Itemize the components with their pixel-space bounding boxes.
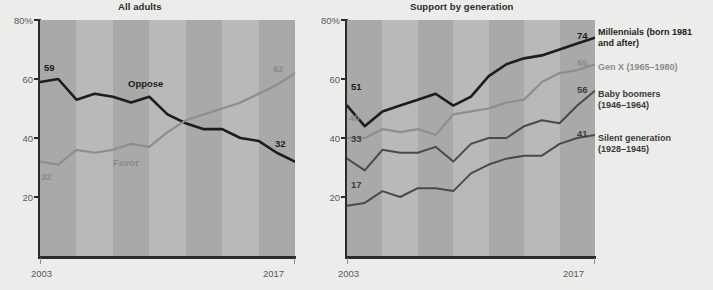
label-boomers-start: 33 <box>351 134 362 144</box>
legend-item-silent-generation: Silent generation (1928–1945) <box>598 133 671 155</box>
plot-area-support-by-generation <box>347 20 595 256</box>
series-label-oppose: Oppose <box>128 79 163 89</box>
panel-left-title: All adults <box>118 1 162 12</box>
label-genx-start: 40 <box>349 113 360 123</box>
legend-item-millennials: Millennials (born 1981 and after) <box>598 27 692 49</box>
y-tick-label-40: 40 <box>0 133 33 144</box>
legend-baby-boomers-line2: (1946–1964) <box>598 100 661 111</box>
legend-item-gen-x: Gen X (1965–1980) <box>598 62 678 73</box>
line-baby-boomers <box>347 91 595 171</box>
label-millennials-start: 51 <box>351 82 362 92</box>
legend-gen-x-line1: Gen X (1965–1980) <box>598 62 678 73</box>
line-silent-generation <box>347 135 595 206</box>
x-axis-line <box>38 256 296 259</box>
plot-area-all-adults <box>40 20 295 256</box>
legend-baby-boomers-line1: Baby boomers <box>598 89 661 100</box>
x-tick-label-2003: 2003 <box>338 268 359 279</box>
label-boomers-end: 56 <box>577 85 588 95</box>
right-series-lines <box>347 20 595 256</box>
x-tick-label-2017: 2017 <box>563 268 584 279</box>
line-gen-x <box>347 64 595 138</box>
legend-silent-generation-line2: (1928–1945) <box>598 144 671 155</box>
y-tick-label-20: 20 <box>0 192 33 203</box>
line-favor <box>40 73 295 164</box>
x-tick-label-2003: 2003 <box>31 268 52 279</box>
panel-all-adults: All adults 80% 60 40 20 59 32 32 62 <box>0 0 300 290</box>
label-favor-end: 62 <box>273 64 284 74</box>
left-series-lines <box>40 20 295 256</box>
label-oppose-end: 32 <box>275 139 286 149</box>
panel-right-title: Support by generation <box>410 1 513 12</box>
x-tick-mark-2017 <box>594 258 595 264</box>
label-millennials-end: 74 <box>577 31 588 41</box>
x-tick-mark-2003 <box>347 258 348 264</box>
two-panel-line-chart-figure: All adults 80% 60 40 20 59 32 32 62 <box>0 0 713 290</box>
y-tick-label-20: 20 <box>304 192 340 203</box>
y-tick-label-40: 40 <box>304 133 340 144</box>
x-axis-line <box>345 256 596 259</box>
legend-millennials-line1: Millennials (born 1981 <box>598 27 692 38</box>
y-tick-label-60: 60 <box>0 74 33 85</box>
legend-silent-generation-line1: Silent generation <box>598 133 671 144</box>
label-favor-start: 32 <box>41 172 52 182</box>
legend-millennials-line2: and after) <box>598 38 692 49</box>
x-tick-mark-2017 <box>294 258 295 264</box>
series-label-favor: Favor <box>113 158 139 168</box>
y-tick-label-80: 80% <box>0 15 33 26</box>
label-oppose-start: 59 <box>44 63 55 73</box>
legend-item-baby-boomers: Baby boomers (1946–1964) <box>598 89 661 111</box>
x-tick-label-2017: 2017 <box>263 268 284 279</box>
label-silent-start: 17 <box>351 180 362 190</box>
panel-support-by-generation: Support by generation 80% 60 40 20 51 40 <box>300 0 713 290</box>
line-millennials <box>347 38 595 127</box>
label-silent-end: 41 <box>577 129 588 139</box>
label-genx-end: 65 <box>577 58 588 68</box>
y-tick-label-80: 80% <box>304 15 340 26</box>
x-tick-mark-2003 <box>40 258 41 264</box>
y-tick-label-60: 60 <box>304 74 340 85</box>
